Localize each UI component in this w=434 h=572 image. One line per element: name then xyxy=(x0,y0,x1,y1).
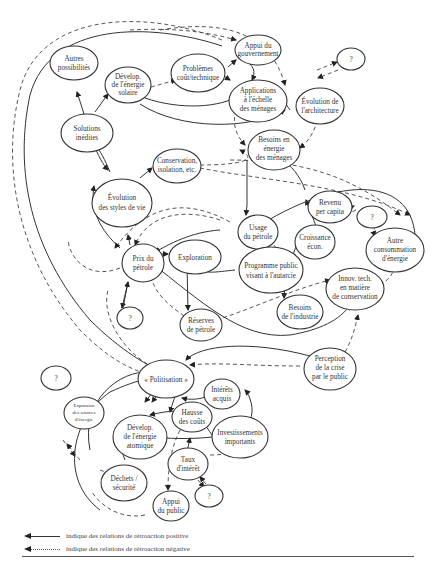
svg-text:énergie: énergie xyxy=(263,145,284,153)
svg-text:inédites: inédites xyxy=(76,134,99,142)
node-taux-interet: Tauxd'intérêt xyxy=(168,448,208,480)
node-question-4: ? xyxy=(41,366,71,390)
svg-text:acquis: acquis xyxy=(213,395,232,403)
node-conservation: Conservation,isolation, etc. xyxy=(153,149,201,183)
node-programme-public: Programme publicvisant à l'autarcie xyxy=(239,247,303,293)
svg-text:Innov. tech.: Innov. tech. xyxy=(338,275,372,283)
svg-text:Solutions: Solutions xyxy=(73,125,100,133)
svg-text:Réserves: Réserves xyxy=(188,317,214,325)
svg-text:Expansion: Expansion xyxy=(73,403,95,408)
svg-text:des sources: des sources xyxy=(73,410,96,415)
node-question-5: ? xyxy=(195,485,223,507)
node-expansion-sources: Expansiondes sourcesd'énergie xyxy=(64,397,104,429)
svg-text:Perception: Perception xyxy=(315,355,346,363)
node-autre-consommation: Autreconsommationd'énergie xyxy=(366,228,424,272)
svg-text:Prix du: Prix du xyxy=(133,255,154,263)
svg-text:Autre: Autre xyxy=(387,237,403,245)
node-reserves-petrole: Réservesde pétrole xyxy=(180,309,222,341)
svg-text:gouvernement: gouvernement xyxy=(237,50,278,58)
svg-text:Évolution: Évolution xyxy=(108,192,137,202)
node-evolution-architecture: Évolution del'architecture xyxy=(296,88,344,124)
node-exploration: Exploration xyxy=(169,240,221,274)
node-question-2: ? xyxy=(357,206,387,228)
svg-text:Dévelop.: Dévelop. xyxy=(127,424,153,432)
node-develop-atomique: Dévelop.de l'énergieatomique xyxy=(113,415,167,459)
node-prix-petrole: Prix dupétrole xyxy=(122,244,164,282)
svg-text:?: ? xyxy=(349,56,352,64)
node-develop-solaire: Dévelop.de l'énergiesolaire xyxy=(105,67,151,103)
svg-text:du pétrole: du pétrole xyxy=(244,233,273,241)
node-hausse-couts: Haussedes coûts xyxy=(172,402,212,432)
node-question-1: ? xyxy=(337,48,365,70)
svg-text:Revenu: Revenu xyxy=(319,199,341,207)
svg-text:d'énergie: d'énergie xyxy=(75,417,94,422)
node-applications-menages: Applicationsà l'échelledes ménages xyxy=(229,80,287,122)
node-revenu: Revenuper capita xyxy=(308,191,352,223)
svg-text:à l'échelle: à l'échelle xyxy=(244,96,273,104)
svg-text:par le public: par le public xyxy=(312,373,348,381)
svg-text:Déchets /: Déchets / xyxy=(111,475,138,483)
svg-text:de conservation: de conservation xyxy=(332,293,378,301)
legend-negative: indique des relations de rétroaction nég… xyxy=(26,545,190,553)
svg-text:Besoins en: Besoins en xyxy=(258,136,290,144)
node-dechets-securite: Déchets /sécurité xyxy=(101,465,147,501)
svg-text:d'intérêt: d'intérêt xyxy=(176,465,199,473)
node-appui-gouvernement: Appui dugouvernement xyxy=(235,35,281,65)
svg-text:l'architecture: l'architecture xyxy=(301,107,338,115)
svg-text:Usage: Usage xyxy=(249,224,267,232)
node-layer: Autrespossibilités Dévelop.de l'énergies… xyxy=(0,0,434,572)
svg-text:isolation, etc.: isolation, etc. xyxy=(158,166,197,174)
svg-text:Évolution de: Évolution de xyxy=(302,96,339,106)
svg-text:Programme public: Programme public xyxy=(244,262,297,270)
svg-text:Exploration: Exploration xyxy=(178,254,212,262)
svg-text:des ménages: des ménages xyxy=(240,105,277,113)
svg-text:« Politisation »: « Politisation » xyxy=(144,376,188,384)
svg-text:solaire: solaire xyxy=(118,89,137,97)
node-investissements: Investissementsimportants xyxy=(212,416,268,458)
svg-text:Dévelop.: Dévelop. xyxy=(115,73,141,81)
svg-text:des styles de vie: des styles de vie xyxy=(99,204,146,212)
node-innov-tech: Innov. tech.en matièrede conservation xyxy=(326,268,384,310)
svg-text:Taux: Taux xyxy=(181,456,196,464)
svg-text:atomique: atomique xyxy=(127,442,154,450)
svg-text:Hausse: Hausse xyxy=(182,409,203,417)
svg-text:Applications: Applications xyxy=(240,87,277,95)
svg-text:de l'énergie: de l'énergie xyxy=(124,433,157,441)
svg-text:du public: du public xyxy=(158,507,185,515)
svg-text:Investissements: Investissements xyxy=(217,429,263,437)
node-croissance: Croissanceécon. xyxy=(295,225,335,259)
svg-text:Problèmes: Problèmes xyxy=(183,65,214,73)
node-autres-possibilites: Autrespossibilités xyxy=(50,46,98,80)
svg-text:de l'industrie: de l'industrie xyxy=(281,313,318,321)
svg-text:de pétrole: de pétrole xyxy=(187,326,216,334)
svg-text:de l'énergie: de l'énergie xyxy=(112,81,145,89)
svg-text:?: ? xyxy=(207,493,210,501)
svg-text:coût/technique: coût/technique xyxy=(177,74,219,82)
svg-text:Besoins: Besoins xyxy=(289,304,312,312)
solid-arrow-icon xyxy=(26,536,60,537)
node-question-3: ? xyxy=(117,307,143,329)
svg-text:sécurité: sécurité xyxy=(113,484,135,492)
svg-text:de la crise: de la crise xyxy=(315,364,344,372)
node-solutions-inedites: Solutionsinédites xyxy=(61,114,113,152)
svg-text:Croissance: Croissance xyxy=(299,234,331,242)
svg-text:des coûts: des coûts xyxy=(179,418,206,426)
svg-text:?: ? xyxy=(370,214,373,222)
svg-text:en matière: en matière xyxy=(340,284,370,292)
svg-text:Appui du: Appui du xyxy=(245,42,272,50)
node-usage-petrole: Usagedu pétrole xyxy=(238,215,278,249)
svg-text:?: ? xyxy=(128,315,131,323)
svg-text:Autres: Autres xyxy=(64,55,83,63)
node-perception-crise: Perceptionde la crisepar le public xyxy=(304,348,356,390)
svg-text:consommation: consommation xyxy=(374,246,417,254)
svg-text:per capita: per capita xyxy=(316,208,345,216)
legend-positive: indique des relations de rétroaction pos… xyxy=(26,532,188,540)
node-politisation: « Politisation » xyxy=(138,360,194,398)
node-interets-acquis: Intérêtsacquis xyxy=(204,379,240,409)
svg-text:visant à l'autarcie: visant à l'autarcie xyxy=(246,272,296,280)
svg-text:?: ? xyxy=(54,375,57,383)
svg-text:des ménages: des ménages xyxy=(256,154,293,162)
svg-text:d'énergie: d'énergie xyxy=(382,255,408,263)
svg-text:Appui: Appui xyxy=(162,498,180,506)
node-problemes: Problèmescoût/technique xyxy=(171,54,225,92)
